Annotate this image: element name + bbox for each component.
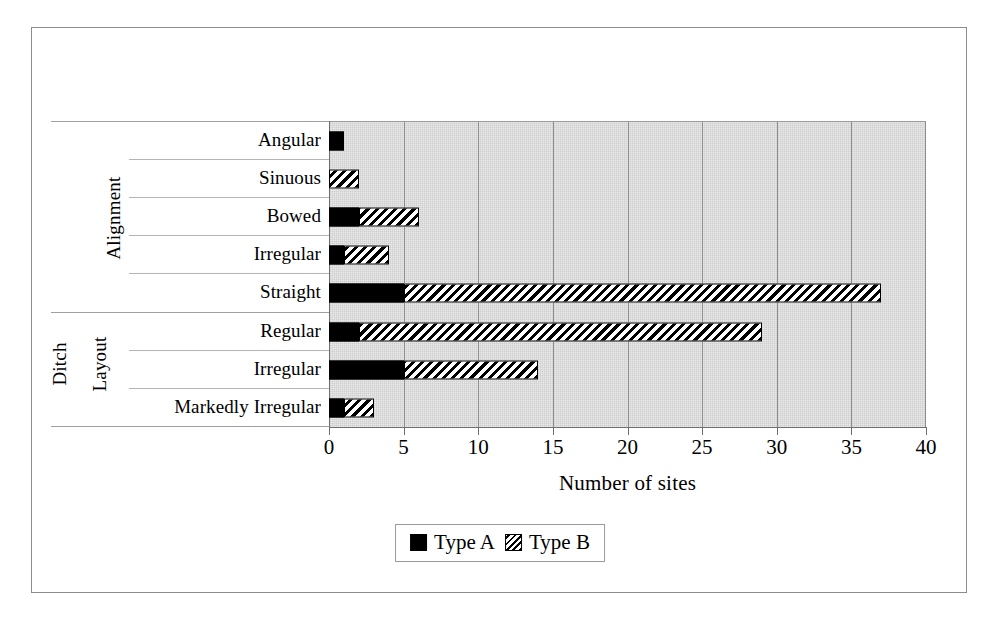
- chart-legend: Type A Type B: [395, 524, 605, 562]
- category-label-irregular-ditch: Irregular: [254, 359, 321, 378]
- group-title-alignment: Alignment: [103, 148, 125, 288]
- x-tick-30: [777, 427, 778, 435]
- bar-segment-type-a[interactable]: [329, 208, 359, 227]
- x-tick-label-0: 0: [324, 437, 335, 458]
- category-label-angular: Angular: [258, 130, 321, 149]
- x-tick-label-40: 40: [916, 437, 937, 458]
- category-label-markedly-irregular: Markedly Irregular: [174, 397, 321, 416]
- bar-segment-type-b[interactable]: [404, 284, 882, 303]
- bar-segment-type-a[interactable]: [329, 322, 359, 341]
- category-label-sinuous: Sinuous: [259, 168, 321, 187]
- x-tick-label-20: 20: [617, 437, 638, 458]
- bar-row-sinuous: [329, 160, 926, 198]
- bar-row-irregular-ditch: [329, 351, 926, 389]
- stacked-bar-markedly-irregular[interactable]: [329, 398, 374, 417]
- bar-row-regular: [329, 313, 926, 351]
- category-axis-labels: Angular Sinuous Bowed Irregular Straight…: [51, 121, 329, 426]
- bar-segment-type-a[interactable]: [329, 398, 344, 417]
- category-row-angular: Angular: [51, 121, 329, 159]
- bar-row-straight: [329, 274, 926, 312]
- bar-row-markedly-irregular: [329, 389, 926, 427]
- diagonal-hatch-swatch-icon: [505, 534, 522, 551]
- chart-figure-frame: Angular Sinuous Bowed Irregular Straight…: [31, 27, 967, 593]
- category-label-regular: Regular: [260, 321, 321, 340]
- stacked-bar-bowed[interactable]: [329, 208, 419, 227]
- x-tick-10: [478, 427, 479, 435]
- bar-segment-type-a[interactable]: [329, 246, 344, 265]
- category-row-straight: Straight: [51, 273, 329, 311]
- category-row-bowed: Bowed: [51, 197, 329, 235]
- x-tick-label-15: 15: [542, 437, 563, 458]
- x-tick-label-10: 10: [468, 437, 489, 458]
- x-tick-label-5: 5: [398, 437, 409, 458]
- bar-segment-type-b[interactable]: [404, 360, 538, 379]
- stacked-bar-angular[interactable]: [329, 132, 344, 151]
- bar-segment-type-b[interactable]: [344, 398, 374, 417]
- chart-plot-container: Angular Sinuous Bowed Irregular Straight…: [32, 28, 968, 594]
- x-tick-20: [628, 427, 629, 435]
- category-label-straight: Straight: [260, 283, 321, 302]
- x-tick-label-25: 25: [692, 437, 713, 458]
- bar-segment-type-b[interactable]: [359, 322, 762, 341]
- x-tick-label-30: 30: [766, 437, 787, 458]
- stacked-bar-irregular-ditch[interactable]: [329, 360, 538, 379]
- legend-entry-type-b[interactable]: Type B: [505, 530, 590, 555]
- bar-segment-type-a[interactable]: [329, 132, 344, 151]
- category-label-bowed: Bowed: [267, 206, 321, 225]
- group-title-layout: Layout: [89, 314, 111, 414]
- bar-row-bowed: [329, 198, 926, 236]
- solid-black-swatch-icon: [410, 534, 427, 551]
- stacked-bar-sinuous[interactable]: [329, 170, 359, 189]
- x-tick-label-35: 35: [841, 437, 862, 458]
- legend-entry-type-a[interactable]: Type A: [410, 530, 495, 555]
- stacked-bar-straight[interactable]: [329, 284, 881, 303]
- group-title-ditch: Ditch: [49, 319, 71, 409]
- category-row-sinuous: Sinuous: [51, 159, 329, 197]
- bar-segment-type-b[interactable]: [359, 208, 419, 227]
- bar-segment-type-a[interactable]: [329, 284, 404, 303]
- legend-label-type-b: Type B: [529, 530, 590, 555]
- stacked-bar-regular[interactable]: [329, 322, 762, 341]
- x-tick-5: [404, 427, 405, 435]
- x-tick-0: [329, 427, 330, 435]
- x-axis-line: 0 5 10 15 20 25 30 35 40: [329, 427, 926, 428]
- x-tick-40: [926, 427, 927, 435]
- bar-row-irregular-alignment: [329, 236, 926, 274]
- axis-separator-bottom: [51, 426, 329, 427]
- bar-chart-plot-area: [329, 121, 926, 428]
- legend-label-type-a: Type A: [434, 530, 495, 555]
- bar-segment-type-a[interactable]: [329, 360, 404, 379]
- x-axis-title: Number of sites: [329, 471, 926, 496]
- category-label-irregular-alignment: Irregular: [254, 244, 321, 263]
- bar-row-angular: [329, 122, 926, 160]
- stacked-bar-irregular-alignment[interactable]: [329, 246, 389, 265]
- x-tick-35: [851, 427, 852, 435]
- bar-segment-type-b[interactable]: [344, 246, 389, 265]
- x-tick-25: [702, 427, 703, 435]
- bar-segment-type-b[interactable]: [329, 170, 359, 189]
- x-tick-15: [553, 427, 554, 435]
- category-row-irregular-alignment: Irregular: [51, 235, 329, 273]
